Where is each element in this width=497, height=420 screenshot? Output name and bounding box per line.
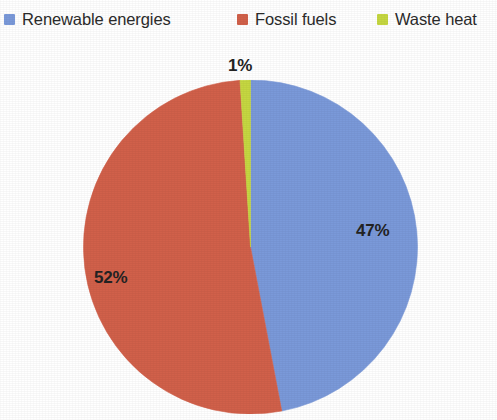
pie-slice-renewable-energies[interactable] <box>251 80 418 411</box>
pie-chart: Renewable energies Fossil fuels Waste he… <box>0 0 497 420</box>
data-label-fossil-fuels: 52% <box>94 269 127 286</box>
legend-swatch-renewable-energies-icon <box>4 14 15 25</box>
data-label-waste-heat: 1% <box>228 57 252 74</box>
legend-item-renewable-energies[interactable]: Renewable energies <box>4 6 171 32</box>
legend-label-renewable-energies: Renewable energies <box>22 11 171 28</box>
pie-slice-group <box>83 80 417 414</box>
data-label-renewable-energies: 47% <box>356 222 389 239</box>
legend-swatch-fossil-fuels-icon <box>237 14 248 25</box>
legend-label-fossil-fuels: Fossil fuels <box>255 11 336 28</box>
legend-swatch-waste-heat-icon <box>377 14 388 25</box>
chart-legend: Renewable energies Fossil fuels Waste he… <box>0 6 497 32</box>
pie-svg <box>83 80 418 414</box>
legend-item-waste-heat[interactable]: Waste heat <box>377 6 477 32</box>
legend-item-fossil-fuels[interactable]: Fossil fuels <box>237 6 336 32</box>
legend-label-waste-heat: Waste heat <box>395 11 477 28</box>
pie-plot-area <box>83 80 418 414</box>
